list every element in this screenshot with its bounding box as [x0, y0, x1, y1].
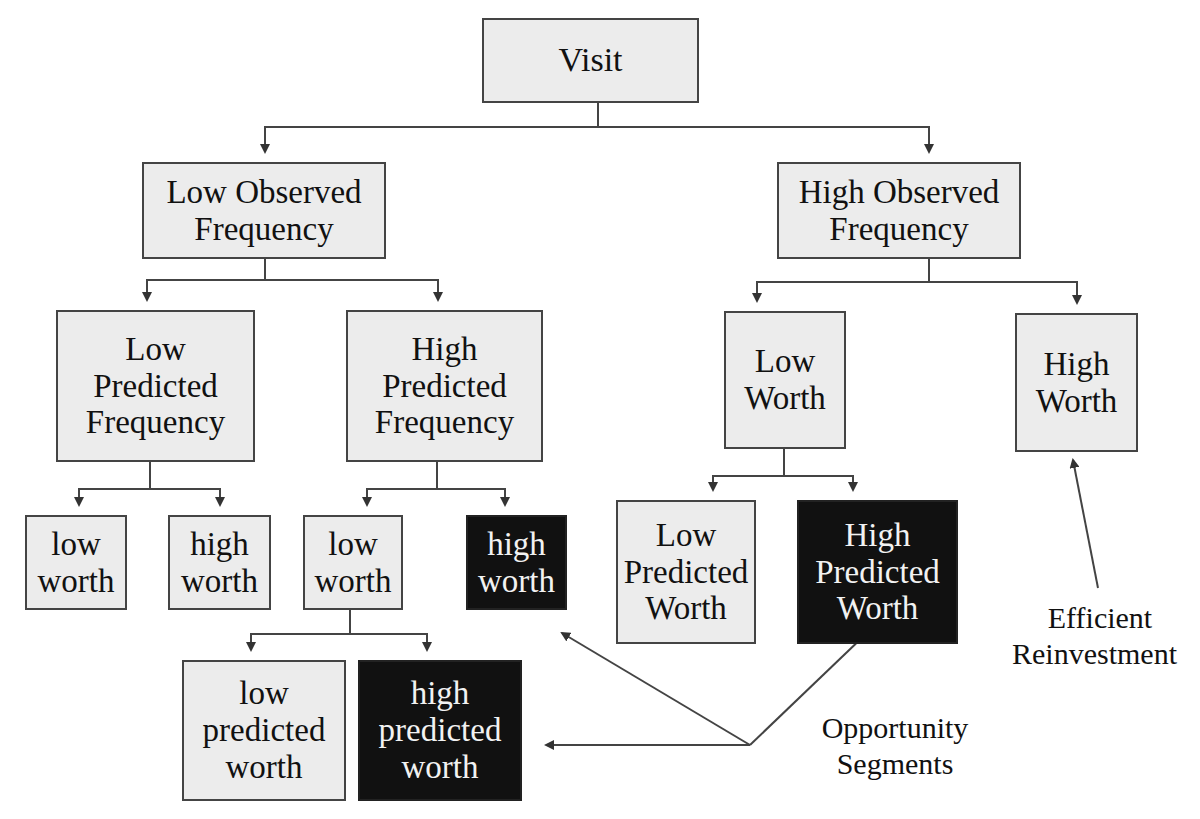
- node-label-line: Low: [656, 517, 717, 554]
- annotation-efficient-reinvestment: Efficient Reinvestment: [1000, 600, 1200, 672]
- node-label-line: Predicted: [815, 554, 940, 591]
- node-low-predicted-worth: Low Predicted Worth: [616, 500, 756, 644]
- node-label-line: Worth: [1036, 383, 1118, 420]
- node-lpf-high-worth: high worth: [168, 515, 271, 610]
- node-label-line: low: [239, 675, 289, 712]
- annotation-line: Reinvestment: [1000, 636, 1200, 672]
- node-label-line: Frequency: [86, 404, 225, 441]
- node-high-predicted-worth-opportunity: High Predicted Worth: [797, 500, 958, 644]
- node-high-predicted-frequency: High Predicted Frequency: [346, 310, 543, 462]
- node-label-line: worth: [226, 749, 303, 786]
- annotation-line: Segments: [790, 746, 1000, 782]
- node-high-worth: High Worth: [1015, 313, 1138, 452]
- node-label-line: worth: [478, 563, 555, 600]
- node-label-line: Predicted: [624, 554, 749, 591]
- node-label-line: High: [845, 517, 911, 554]
- annotation-line: Opportunity: [790, 710, 1000, 746]
- node-label-line: low: [51, 526, 101, 563]
- node-label-line: High: [1044, 346, 1110, 383]
- node-label-line: Predicted: [382, 368, 507, 405]
- node-hlw-high-predicted-worth-opportunity: high predicted worth: [358, 660, 522, 801]
- node-label-line: low: [328, 526, 378, 563]
- node-low-observed-frequency: Low Observed Frequency: [142, 162, 386, 259]
- node-label-line: Worth: [744, 380, 826, 417]
- node-label-line: worth: [402, 749, 479, 786]
- node-label-line: Frequency: [375, 404, 514, 441]
- node-label-line: Low Observed: [166, 174, 361, 211]
- annotation-line: Efficient: [1000, 600, 1200, 636]
- node-high-observed-frequency: High Observed Frequency: [777, 162, 1021, 259]
- node-label-line: predicted: [203, 712, 326, 749]
- node-label-line: High: [412, 331, 478, 368]
- node-hpf-low-worth: low worth: [303, 515, 403, 610]
- node-hpf-high-worth-opportunity: high worth: [466, 515, 567, 610]
- node-label-line: worth: [38, 563, 115, 600]
- node-label-line: predicted: [379, 712, 502, 749]
- node-label-line: Worth: [645, 590, 727, 627]
- node-label-line: Low: [755, 343, 816, 380]
- node-label-line: Visit: [558, 41, 622, 79]
- node-label-line: Frequency: [194, 211, 333, 248]
- node-label-line: worth: [315, 563, 392, 600]
- node-hlw-low-predicted-worth: low predicted worth: [182, 660, 346, 801]
- node-label-line: Frequency: [829, 211, 968, 248]
- node-label-line: High Observed: [799, 174, 1000, 211]
- node-label-line: high: [190, 526, 249, 563]
- node-visit: Visit: [482, 18, 699, 103]
- node-label-line: high: [487, 526, 546, 563]
- node-low-predicted-frequency: Low Predicted Frequency: [56, 310, 255, 462]
- node-label-line: Low: [125, 331, 186, 368]
- annotation-opportunity-segments: Opportunity Segments: [790, 710, 1000, 782]
- node-label-line: worth: [181, 563, 258, 600]
- node-label-line: Predicted: [93, 368, 218, 405]
- node-low-worth: Low Worth: [724, 311, 846, 449]
- node-label-line: Worth: [837, 590, 919, 627]
- node-lpf-low-worth: low worth: [25, 515, 127, 610]
- node-label-line: high: [411, 675, 470, 712]
